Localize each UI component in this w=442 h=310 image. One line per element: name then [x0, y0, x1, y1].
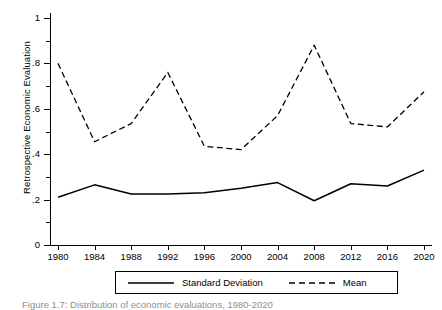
y-axis-title: Retrospective Economic Evaluation — [21, 13, 32, 223]
series-line-standard-deviation — [58, 170, 424, 201]
x-tick-label-1988: 1988 — [111, 252, 151, 262]
y-axis-line — [50, 13, 51, 245]
series-line-mean — [58, 45, 424, 149]
legend-swatch-solid-line-icon — [128, 278, 174, 288]
x-tick-2008 — [314, 245, 315, 250]
legend-label-mean: Mean — [343, 278, 367, 288]
figure-caption: Figure 1.7: Distribution of economic eva… — [22, 299, 442, 310]
y-tick-label-.2: .2 — [18, 195, 40, 205]
y-tick-minor — [46, 41, 50, 42]
x-tick-1980 — [58, 245, 59, 250]
x-tick-label-2004: 2004 — [258, 252, 298, 262]
y-tick-label-.4: .4 — [18, 149, 40, 159]
x-tick-label-2008: 2008 — [294, 252, 334, 262]
x-tick-label-2020: 2020 — [404, 252, 442, 262]
x-tick-2020 — [424, 245, 425, 250]
legend-entry-mean: Mean — [289, 278, 367, 288]
x-tick-1988 — [131, 245, 132, 250]
y-tick-1 — [44, 18, 50, 19]
x-tick-2012 — [351, 245, 352, 250]
y-tick-label-.6: .6 — [18, 104, 40, 114]
x-tick-label-2016: 2016 — [367, 252, 407, 262]
y-tick-minor — [46, 177, 50, 178]
legend-label-standard-deviation: Standard Deviation — [182, 278, 263, 288]
legend-swatch-dashed-line-icon — [289, 278, 335, 288]
x-tick-1992 — [168, 245, 169, 250]
x-tick-2004 — [278, 245, 279, 250]
y-tick-label-0: 0 — [18, 240, 40, 250]
y-tick-0 — [44, 245, 50, 246]
x-tick-label-1984: 1984 — [75, 252, 115, 262]
legend-entry-standard-deviation: Standard Deviation — [128, 278, 263, 288]
y-tick-.8 — [44, 63, 50, 64]
chart-legend: Standard Deviation Mean — [115, 271, 398, 294]
x-tick-2016 — [387, 245, 388, 250]
y-tick-minor — [46, 86, 50, 87]
x-tick-label-1996: 1996 — [184, 252, 224, 262]
y-tick-.2 — [44, 200, 50, 201]
x-tick-1996 — [204, 245, 205, 250]
y-tick-label-1: 1 — [18, 13, 40, 23]
y-tick-minor — [46, 132, 50, 133]
x-tick-label-2000: 2000 — [221, 252, 261, 262]
x-tick-1984 — [95, 245, 96, 250]
x-tick-label-2012: 2012 — [331, 252, 371, 262]
y-tick-.4 — [44, 154, 50, 155]
x-tick-label-1980: 1980 — [38, 252, 78, 262]
y-tick-minor — [46, 222, 50, 223]
y-tick-label-.8: .8 — [18, 58, 40, 68]
x-tick-label-1992: 1992 — [148, 252, 188, 262]
x-tick-2000 — [241, 245, 242, 250]
y-tick-.6 — [44, 109, 50, 110]
